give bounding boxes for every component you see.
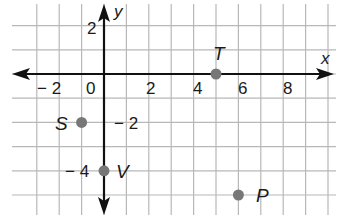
point-label-v: V	[116, 162, 129, 181]
x-tick-label: 8	[283, 80, 292, 97]
point-p	[233, 190, 244, 201]
point-label-s: S	[55, 114, 68, 133]
x-axis-label: x	[321, 50, 330, 67]
points	[76, 69, 244, 201]
point-v	[99, 165, 110, 176]
point-label-p: P	[256, 186, 269, 205]
x-tick-label: 0	[86, 80, 95, 97]
y-tick-label: − 4	[65, 163, 89, 180]
point-label-t: T	[213, 44, 225, 63]
y-tick-label: 2	[87, 20, 96, 37]
y-axis-label: y	[114, 3, 123, 20]
x-tick-label: 6	[238, 80, 247, 97]
x-tick-label: 2	[146, 80, 155, 97]
x-tick-label: − 2	[37, 80, 61, 97]
grid-lines	[12, 4, 336, 215]
y-tick-label: − 2	[114, 115, 138, 132]
axes	[12, 4, 334, 215]
coordinate-plane	[0, 0, 353, 219]
point-t	[211, 69, 222, 80]
point-s	[76, 117, 87, 128]
x-tick-label: 4	[193, 80, 202, 97]
